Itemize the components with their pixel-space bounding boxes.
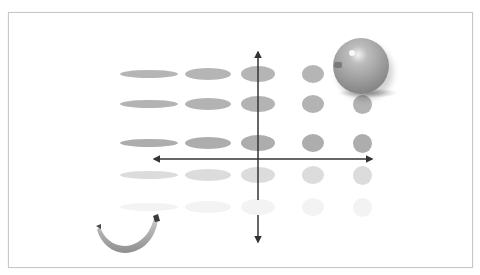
apple-stem bbox=[334, 62, 342, 68]
banana-icon bbox=[92, 212, 162, 257]
axes bbox=[0, 0, 480, 275]
apple-highlight bbox=[349, 50, 355, 56]
